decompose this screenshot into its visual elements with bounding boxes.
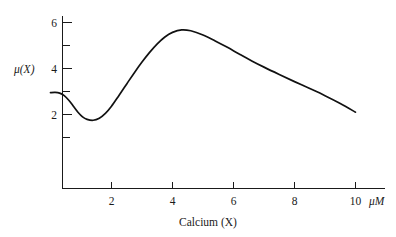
x-axis-title: Calcium (X) xyxy=(179,216,237,229)
x-axis-unit-label: μM xyxy=(368,195,386,208)
chart-figure: 6 4 2 μ(X) 2 4 6 8 10 μM Calcium (X) xyxy=(0,0,396,237)
mu-x-curve xyxy=(51,30,356,121)
line-chart: 6 4 2 μ(X) 2 4 6 8 10 μM Calcium (X) xyxy=(0,0,396,237)
y-tick-label-2: 2 xyxy=(51,109,57,121)
x-tick-label-6: 6 xyxy=(231,195,237,207)
x-tick-label-2: 2 xyxy=(109,195,115,207)
x-tick-label-4: 4 xyxy=(170,195,176,207)
x-tick-label-8: 8 xyxy=(292,195,298,207)
y-axis-title: μ(X) xyxy=(13,63,35,76)
x-tick-label-10: 10 xyxy=(350,195,362,207)
y-tick-label-6: 6 xyxy=(51,17,57,29)
y-tick-label-4: 4 xyxy=(51,63,57,75)
